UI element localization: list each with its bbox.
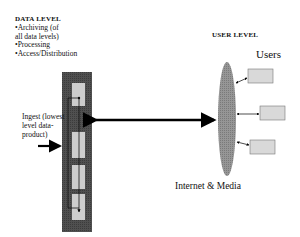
- data-level-bullets: •Archiving (of all data levels) •Process…: [15, 24, 77, 58]
- user-box-2: [260, 106, 285, 120]
- internet-media-ellipse: [218, 62, 236, 176]
- bullet-line: •Access/Distribution: [15, 50, 77, 59]
- user-level-heading: USER LEVEL: [212, 31, 258, 39]
- data-level-heading: DATA LEVEL: [15, 15, 61, 23]
- user-box-3: [250, 140, 275, 154]
- users-label: Users: [256, 48, 281, 60]
- user-boxes: [236, 69, 285, 154]
- archive-box-1: [72, 83, 85, 106]
- archive-box-4: [72, 194, 85, 220]
- user-box-1: [248, 69, 273, 83]
- archive-box-2: [72, 132, 85, 158]
- archive-column: [62, 72, 92, 232]
- user-link-1: [236, 78, 247, 83]
- ingest-line: level data-: [22, 121, 64, 130]
- ingest-line: product): [22, 130, 64, 139]
- user-link-3: [237, 142, 249, 145]
- archive-box-3: [72, 165, 85, 189]
- ingest-line: Ingest (lowest: [22, 112, 64, 121]
- internet-media-label: Internet & Media: [175, 181, 241, 191]
- ingest-label: Ingest (lowest level data- product): [22, 112, 64, 139]
